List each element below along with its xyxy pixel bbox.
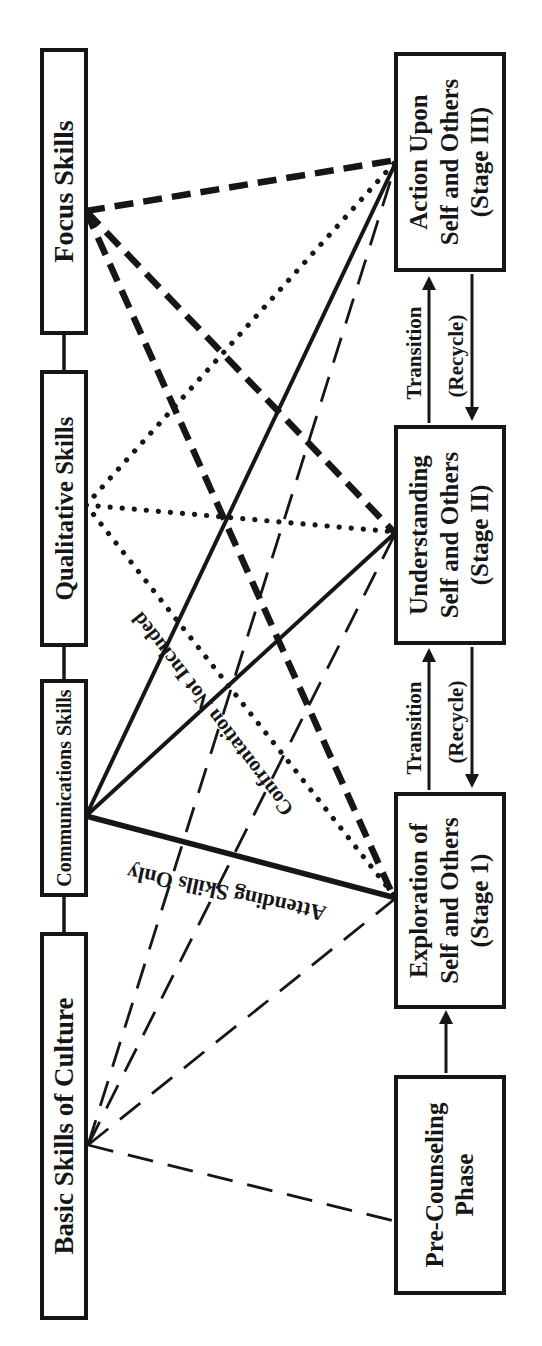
stage-box-line: (Stage 1) (465, 854, 496, 948)
skill-box-qualitative-skills: Qualitative Skills (40, 370, 88, 647)
skill-box-focus-skills: Focus Skills (40, 48, 88, 335)
skill-box-label: Qualitative Skills (52, 416, 77, 600)
counseling-stages-diagram: Attending Skills Only Confrontation Not … (0, 0, 542, 1346)
stage-box-pre-counseling: Pre-Counseling Phase (394, 1075, 506, 1295)
stage-box-line: Pre-Counseling (420, 1103, 451, 1268)
stage-box-line: Self and Others (435, 79, 466, 246)
stage-box-line: Phase (450, 1154, 481, 1217)
line-qualitative-to-stage2 (86, 505, 396, 532)
stage-box-line: (Stage II) (465, 485, 496, 586)
skill-box-basic-skills-of-culture: Basic Skills of Culture (40, 932, 88, 1320)
stage-box-line: Self and Others (435, 817, 466, 984)
transition-label-1: Transition (402, 681, 426, 774)
skill-box-label: Communications Skills (54, 689, 74, 886)
stage-box-line: Self and Others (435, 452, 466, 619)
recycle-label-1: (Recycle) (444, 681, 468, 764)
recycle-label-2: (Recycle) (444, 315, 468, 398)
stage-box-action-stage3: Action Upon Self and Others (Stage III) (394, 52, 506, 272)
transition-label-2: Transition (402, 306, 426, 399)
skill-box-communications-skills: Communications Skills (40, 679, 88, 897)
line-focus-to-stage3 (86, 160, 396, 211)
transition-arrow-1-head (422, 648, 436, 662)
recycle-arrow-2-head (465, 407, 479, 421)
skill-box-label: Focus Skills (50, 120, 78, 262)
line-basic-to-stage1 (88, 898, 396, 1145)
stage-box-line: Understanding (404, 455, 435, 615)
stage-box-line: Action Upon (404, 94, 435, 229)
line-basic-to-precounseling (88, 1145, 398, 1222)
line-basic-to-stage3 (88, 160, 397, 1145)
transition-arrow-2-head (422, 276, 436, 290)
skill-box-label: Basic Skills of Culture (51, 998, 78, 1255)
stage-box-line: (Stage III) (465, 107, 496, 217)
stage-box-exploration-stage1: Exploration of Self and Others (Stage 1) (394, 792, 506, 1009)
arrow-pre-to-stage1-head (439, 1010, 453, 1024)
confrontation-not-included-label: Confrontation Not Included (126, 607, 298, 821)
stage-box-understanding-stage2: Understanding Self and Others (Stage II) (394, 425, 506, 645)
recycle-arrow-1-head (465, 774, 479, 788)
line-qualitative-to-stage3 (86, 160, 397, 505)
line-communications-to-stage2 (86, 532, 396, 816)
stage-box-line: Exploration of (404, 823, 435, 978)
